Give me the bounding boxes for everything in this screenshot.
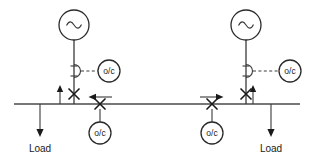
relay-label: o/c (206, 128, 218, 138)
ct-arrow-load-left (57, 85, 63, 104)
single-line-diagram: o/c o/ (0, 0, 314, 161)
overcurrent-relay-tie-left[interactable]: o/c (89, 122, 111, 144)
load-feeder-right: Load (260, 104, 282, 154)
load-label-right: Load (260, 143, 282, 154)
ct-arrow-load-right (250, 85, 256, 104)
load-feeder-left: Load (29, 104, 51, 154)
load-arrow-icon (36, 129, 43, 137)
overcurrent-relay-tie-right[interactable]: o/c (201, 122, 223, 144)
direction-arrow-left (89, 94, 113, 100)
overcurrent-relay-feeder-left[interactable]: o/c (98, 60, 120, 82)
ac-source-left[interactable] (59, 10, 89, 40)
tie-protection-right: o/c (200, 94, 224, 144)
load-arrow-icon (267, 129, 274, 137)
current-transformer-left (71, 65, 81, 78)
relay-label: o/c (103, 66, 115, 76)
overcurrent-relay-feeder-right[interactable]: o/c (279, 60, 301, 82)
diagram-canvas: o/c o/ (0, 0, 314, 161)
relay-label: o/c (284, 66, 296, 76)
relay-label: o/c (94, 128, 106, 138)
load-label-left: Load (29, 143, 51, 154)
direction-arrow-right (200, 94, 224, 100)
source-branch-right: o/c (231, 10, 301, 104)
tie-protection-left: o/c (89, 94, 113, 144)
source-branch-left: o/c (59, 10, 120, 104)
current-transformer-right (243, 65, 253, 78)
ac-source-right[interactable] (231, 10, 261, 40)
